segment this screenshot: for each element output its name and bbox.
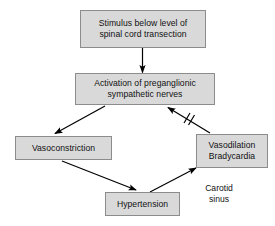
node-activation[interactable]: Activation of preganglionic sympathetic … [75, 73, 215, 105]
node-vasodilation-bradycardia[interactable]: Vasodilation Bradycardia [196, 134, 268, 168]
node-vasoconstriction-label: Vasoconstriction [30, 143, 97, 154]
edge-hypertension-to-vasodilation [150, 168, 196, 192]
node-stimulus[interactable]: Stimulus below level of spinal cord tran… [80, 10, 206, 48]
node-vasoconstriction[interactable]: Vasoconstriction [15, 136, 112, 160]
node-vasodilation-bradycardia-label: Vasodilation Bradycardia [207, 140, 258, 162]
edge-activation-to-vasoconstriction [55, 106, 105, 134]
node-hypertension-label: Hypertension [115, 199, 170, 210]
node-stimulus-label: Stimulus below level of spinal cord tran… [97, 18, 190, 40]
node-activation-label: Activation of preganglionic sympathetic … [92, 78, 198, 100]
node-hypertension[interactable]: Hypertension [105, 192, 180, 216]
diagram-canvas: Stimulus below level of spinal cord tran… [0, 0, 275, 226]
edge-vasodilation-to-activation [168, 108, 210, 134]
label-carotid-sinus: Carotid sinus [191, 183, 247, 205]
edge-vasoconstriction-to-hypertension [62, 161, 136, 190]
